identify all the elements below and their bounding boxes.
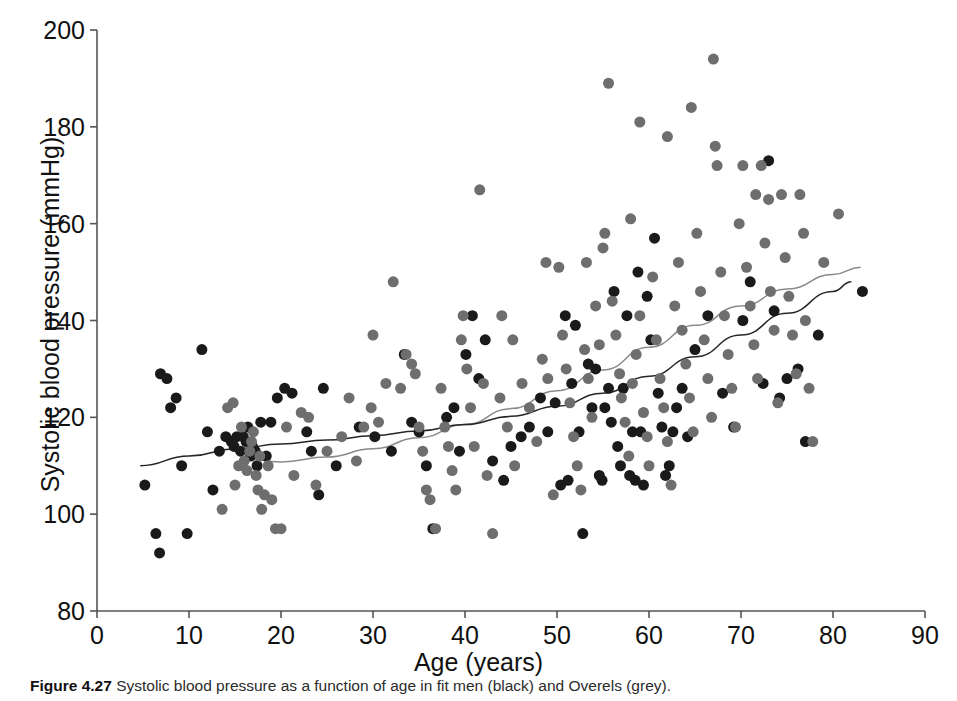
data-point [369,431,380,442]
data-point [301,426,312,437]
x-tick-label: 40 [451,621,479,649]
data-point [182,528,193,539]
data-point [708,54,719,65]
data-point [248,426,259,437]
data-point [745,276,756,287]
data-point [807,436,818,447]
data-point [276,523,287,534]
data-point [791,368,802,379]
data-point [586,402,597,413]
data-point [306,446,317,457]
x-tick-label: 0 [90,621,104,649]
data-point [594,339,605,350]
data-point [673,257,684,268]
y-axis-title: Systolic blood pressure (mmHg) [36,35,65,595]
data-point [441,412,452,423]
data-point [380,378,391,389]
data-point [702,310,713,321]
data-point [207,484,218,495]
data-point [579,344,590,355]
data-point [583,373,594,384]
data-point [410,368,421,379]
data-point [577,528,588,539]
data-point [386,446,397,457]
axis-layer [90,30,925,618]
data-point [542,426,553,437]
data-point [651,334,662,345]
data-point [730,422,741,433]
data-point [550,397,561,408]
data-point [667,426,678,437]
data-point [478,378,489,389]
data-point [776,189,787,200]
x-tick-label: 80 [819,621,847,649]
data-point [607,296,618,307]
x-tick-label: 60 [635,621,663,649]
data-point [642,431,653,442]
data-point [631,349,642,360]
x-tick-label: 50 [543,621,571,649]
data-point [266,494,277,505]
data-point [586,412,597,423]
figure-caption-text: Systolic blood pressure as a function of… [116,677,671,694]
data-point [516,431,527,442]
data-point [439,422,450,433]
x-axis-title: Age (years) [0,648,957,677]
data-point [540,257,551,268]
data-point [642,291,653,302]
data-point [246,436,257,447]
data-point [566,378,577,389]
data-point [474,184,485,195]
data-point [627,378,638,389]
data-point [649,233,660,244]
data-point [161,373,172,384]
data-point [560,310,571,321]
data-point [783,291,794,302]
data-point [612,441,623,452]
data-point [469,441,480,452]
data-point [154,547,165,558]
data-point [632,267,643,278]
data-point [695,286,706,297]
data-point [496,310,507,321]
data-point [252,460,263,471]
data-point [677,325,688,336]
data-point [336,431,347,442]
data-point [621,310,632,321]
data-point [794,189,805,200]
data-points-layer [139,54,868,559]
data-point [458,310,469,321]
data-point [769,305,780,316]
data-point [660,470,671,481]
data-point [417,446,428,457]
data-point [686,102,697,113]
data-point [597,475,608,486]
data-point [448,402,459,413]
data-point [610,330,621,341]
data-point [465,402,476,413]
data-point [634,116,645,127]
data-point [318,383,329,394]
data-point [734,218,745,229]
data-point [531,436,542,447]
tick-label-layer: 010203040506070809080100120140160180200 [43,16,939,649]
data-point [599,402,610,413]
data-point [460,349,471,360]
data-point [568,431,579,442]
data-point [710,141,721,152]
data-point [719,310,730,321]
data-point [715,267,726,278]
data-point [176,460,187,471]
data-point [741,262,752,273]
data-point [351,455,362,466]
data-point [787,330,798,341]
data-point [494,392,505,403]
data-point [726,383,737,394]
data-point [606,417,617,428]
data-point [443,441,454,452]
data-point [572,460,583,471]
data-point [548,489,559,500]
data-point [217,504,228,515]
data-point [664,460,675,471]
data-point [669,300,680,311]
